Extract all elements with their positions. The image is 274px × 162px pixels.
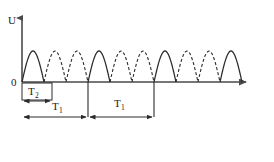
t2-annotation: T 2 (22, 83, 52, 101)
dashed-half-wave-arch (66, 51, 88, 82)
y-axis-label: U (8, 14, 16, 26)
t1-first-label: T (52, 100, 59, 112)
t1-second-subscript: 1 (121, 103, 125, 112)
t1-second-label: T (114, 97, 121, 109)
t1-first-subscript: 1 (59, 106, 63, 115)
waveform-canvas: U 0 T 2 T 1 T 1 (0, 0, 274, 162)
solid-half-wave-arch (22, 51, 44, 82)
t1-second-annotation: T 1 (90, 97, 152, 117)
waveform-group (22, 51, 242, 82)
dashed-half-wave-arch (44, 51, 66, 82)
solid-half-wave-arch (154, 51, 176, 82)
dashed-half-wave-arch (132, 51, 154, 82)
t2-label: T (28, 85, 35, 97)
origin-label: 0 (11, 76, 17, 88)
waveform-figure: U 0 T 2 T 1 T 1 (0, 0, 274, 162)
t2-subscript: 2 (35, 91, 39, 100)
dashed-half-wave-arch (110, 51, 132, 82)
solid-half-wave-arch (88, 51, 110, 82)
dashed-half-wave-arch (198, 51, 220, 82)
axes-group: U 0 (8, 14, 246, 88)
t1-first-annotation: T 1 (24, 100, 86, 117)
solid-half-wave-arch (220, 51, 242, 82)
dashed-half-wave-arch (176, 51, 198, 82)
